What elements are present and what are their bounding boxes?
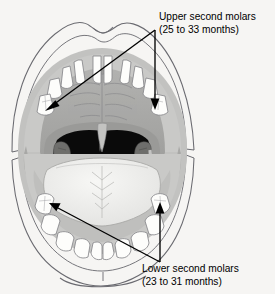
mouth-anatomy-figure: Upper second molars (25 to 33 months) Lo… [0, 0, 275, 294]
tooth-lower-canine-left [56, 232, 74, 251]
upper-label-line1: Upper second molars [159, 11, 256, 22]
lower-label-line1: Lower second molars [142, 263, 239, 274]
lower-label-line2: (23 to 31 months) [142, 276, 222, 287]
tooth-lower-lateral-incisor-left [74, 239, 90, 258]
upper-label-line2: (25 to 33 months) [159, 24, 239, 35]
tooth-upper-central-incisor-right [104, 56, 112, 83]
tooth-lower-lateral-incisor-right [115, 239, 131, 258]
tooth-upper-central-incisor-left [93, 56, 101, 83]
tooth-lower-central-incisor-right [103, 242, 114, 260]
tooth-lower-central-incisor-left [91, 242, 102, 260]
